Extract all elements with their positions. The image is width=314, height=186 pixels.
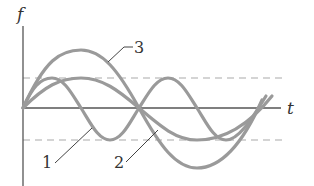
f-axis-label: f (17, 4, 23, 24)
leader-line-1 (55, 128, 92, 163)
leader-line-2 (126, 130, 158, 162)
curve-label-3: 3 (134, 38, 144, 57)
curve-2 (23, 78, 272, 140)
t-axis-label: t (287, 98, 294, 118)
curve-label-1: 1 (42, 153, 52, 172)
leader-line-3 (108, 47, 133, 62)
curve-label-2: 2 (114, 153, 124, 172)
